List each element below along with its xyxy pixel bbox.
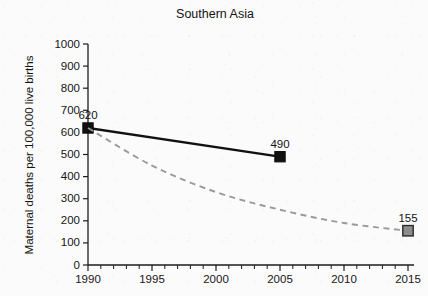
y-tick-label: 800 [61,82,80,94]
point-labels-layer: 620490155 [78,109,417,224]
data-point-label: 490 [270,138,289,150]
y-tick-label: 0 [74,259,80,271]
series-line-target [88,128,408,231]
data-point-marker-observed [83,123,93,133]
y-tick-label: 500 [61,148,80,160]
y-tick-label: 100 [61,236,80,248]
data-point-marker-observed [275,152,285,162]
y-tick-label: 700 [61,104,80,116]
y-tick-label: 1000 [54,38,80,50]
y-axis-title: Maternal deaths per 100,000 live births [23,55,35,254]
chart-title: Southern Asia [176,7,254,21]
y-tick-label: 200 [61,214,80,226]
series-layer [83,123,413,236]
chart-canvas: Southern Asia Maternal deaths per 100,00… [0,0,428,296]
x-tick-label: 1990 [75,273,101,285]
x-tick-label: 2005 [267,273,293,285]
data-point-label: 155 [398,212,417,224]
y-tick-label: 300 [61,192,80,204]
x-axis-ticks: 199019952000200520102015 [75,265,421,285]
x-tick-label: 2000 [203,273,229,285]
chart-figure: Southern Asia Maternal deaths per 100,00… [0,0,428,296]
y-tick-label: 400 [61,170,80,182]
x-tick-label: 2015 [395,273,421,285]
data-point-label: 620 [78,109,97,121]
series-line-observed [88,128,280,157]
y-axis-ticks: 01002003004005006007008009001000 [54,38,88,271]
x-tick-label: 2010 [331,273,357,285]
y-tick-label: 900 [61,60,80,72]
y-tick-label: 600 [61,126,80,138]
data-point-marker-target [403,226,413,236]
x-tick-label: 1995 [139,273,165,285]
